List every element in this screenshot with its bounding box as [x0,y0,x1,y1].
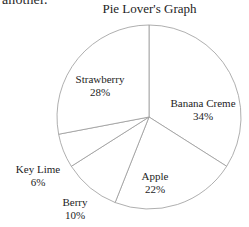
slice-label-strawberry-name: Strawberry [76,73,125,85]
slice-label-apple: Apple 22% [124,170,186,196]
slice-label-key-lime-value: 6% [2,176,74,189]
slice-label-key-lime: Key Lime 6% [2,163,74,189]
slice-label-banana-creme-value: 34% [155,110,249,123]
slice-label-berry-name: Berry [62,196,87,208]
slice-label-berry: Berry 10% [42,196,108,222]
slice-label-banana-creme: Banana Creme 34% [155,97,249,123]
pie-chart-figure: another. Pie Lover's Graph Strawberry 28… [0,0,249,227]
slice-label-banana-creme-name: Banana Creme [170,97,235,109]
slice-label-apple-value: 22% [124,183,186,196]
slice-label-berry-value: 10% [42,209,108,222]
slice-label-strawberry: Strawberry 28% [57,73,143,99]
slice-label-apple-name: Apple [142,170,169,182]
slice-label-strawberry-value: 28% [57,86,143,99]
slice-label-key-lime-name: Key Lime [16,163,60,175]
